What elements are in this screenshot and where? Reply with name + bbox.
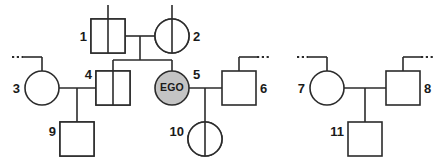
individual-4-label: 4 <box>85 67 93 82</box>
pedigree-diagram: 1 2 3 <box>0 0 442 160</box>
continuation-stub-left-3 <box>12 57 42 71</box>
individual-7-label: 7 <box>298 81 305 96</box>
individual-5-label: 5 <box>193 67 200 82</box>
individual-8-label: 8 <box>424 81 431 96</box>
individual-10-label: 10 <box>170 124 184 139</box>
individual-11-label: 11 <box>330 124 344 139</box>
individual-4[interactable] <box>96 71 130 105</box>
individual-1[interactable] <box>91 19 125 53</box>
continuation-stub-left-7 <box>297 57 327 71</box>
individual-6-label: 6 <box>260 81 267 96</box>
continuation-stub-right-6 <box>239 57 270 71</box>
union-3-4 <box>59 88 96 122</box>
individual-2[interactable] <box>155 19 189 53</box>
union-7-8 <box>344 88 386 122</box>
individual-10[interactable] <box>188 122 222 156</box>
individual-9[interactable] <box>60 122 94 156</box>
individual-8[interactable] <box>386 71 420 105</box>
individual-3[interactable] <box>25 71 59 105</box>
pedigree-canvas: 1 2 3 <box>0 0 442 160</box>
ego-inner-label: EGO <box>160 81 184 93</box>
individual-3-label: 3 <box>13 81 20 96</box>
individual-1-label: 1 <box>80 29 87 44</box>
individual-5-ego[interactable]: EGO <box>155 71 189 105</box>
individual-11[interactable] <box>348 122 382 156</box>
individual-9-label: 9 <box>49 124 56 139</box>
individual-6[interactable] <box>222 71 256 105</box>
individual-2-label: 2 <box>193 29 200 44</box>
continuation-stub-right-8 <box>403 57 434 71</box>
individual-7[interactable] <box>310 71 344 105</box>
union-5-6 <box>189 88 222 122</box>
